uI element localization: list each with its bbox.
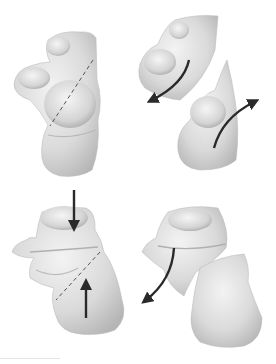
upper-fragment-top — [168, 209, 212, 231]
panel-top-right — [139, 16, 254, 171]
panel-top-left — [14, 32, 100, 177]
lower-fragment-dome — [190, 96, 226, 128]
bottom-rule — [0, 358, 60, 359]
articular-dome — [44, 80, 96, 128]
upper-fragment-dome — [144, 49, 176, 75]
panel-bottom-right — [142, 207, 262, 348]
panel-bottom-left — [12, 190, 124, 335]
fracture-mechanism-figure — [0, 0, 276, 364]
side-facet — [18, 67, 50, 89]
upper-facet — [46, 36, 70, 56]
upper-fragment-facet — [169, 21, 189, 39]
lower-fragment — [191, 254, 262, 347]
top-surface — [40, 206, 88, 230]
